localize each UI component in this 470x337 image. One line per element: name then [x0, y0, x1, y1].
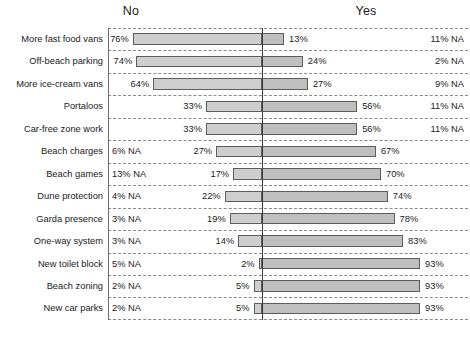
label-column-divider: [108, 28, 109, 320]
na-label-left: 4% NA: [112, 185, 141, 207]
category-label: More ice-cream vans: [0, 73, 103, 95]
diverging-bar-chart: No Yes More fast food vans76%13%11% NAOf…: [0, 0, 470, 337]
value-label-no: 74%: [114, 50, 133, 72]
plot-area: More fast food vans76%13%11% NAOff-beach…: [0, 28, 470, 320]
chart-row: Off-beach parking74%24%2% NA: [0, 50, 470, 72]
bar-no: [230, 213, 262, 224]
bar-yes: [262, 258, 420, 269]
category-label: Garda presence: [0, 208, 103, 230]
category-label: New car parks: [0, 297, 103, 319]
chart-row: Beach charges6% NA27%67%: [0, 140, 470, 162]
chart-row: Car-free zone work33%56%11% NA: [0, 118, 470, 140]
category-label: Portaloos: [0, 95, 103, 117]
bar-yes: [262, 213, 395, 224]
na-label-right: 11% NA: [431, 95, 464, 117]
bar-no: [254, 280, 263, 291]
value-label-yes: 24%: [308, 50, 327, 72]
chart-row: More fast food vans76%13%11% NA: [0, 28, 470, 50]
value-label-yes: 78%: [400, 208, 419, 230]
value-label-no: 19%: [207, 208, 226, 230]
na-label-right: 11% NA: [431, 28, 464, 50]
na-label-right: 11% NA: [431, 118, 464, 140]
bar-yes: [262, 191, 388, 202]
bar-no: [136, 56, 262, 67]
value-label-yes: 74%: [393, 185, 412, 207]
bar-yes: [262, 123, 357, 134]
bar-no: [216, 146, 262, 157]
chart-row: Dune protection4% NA22%74%: [0, 185, 470, 207]
bar-yes: [262, 56, 303, 67]
bar-yes: [262, 168, 381, 179]
bar-no: [225, 191, 262, 202]
na-label-left: 3% NA: [112, 208, 141, 230]
value-label-no: 14%: [216, 230, 235, 252]
category-label: Beach games: [0, 163, 103, 185]
value-label-yes: 13%: [289, 28, 308, 50]
value-label-no: 5%: [236, 275, 249, 297]
axis-header-no: No: [0, 4, 262, 18]
category-label: New toilet block: [0, 253, 103, 275]
zero-axis-line: [262, 28, 263, 320]
bar-no: [153, 78, 262, 89]
na-label-left: 13% NA: [112, 163, 146, 185]
bar-yes: [262, 280, 420, 291]
bar-no: [206, 123, 262, 134]
chart-row: Portaloos33%56%11% NA: [0, 95, 470, 117]
category-label: Off-beach parking: [0, 50, 103, 72]
na-label-left: 6% NA: [112, 140, 141, 162]
value-label-no: 2%: [241, 253, 254, 275]
bar-yes: [262, 101, 357, 112]
value-label-no: 33%: [183, 118, 202, 140]
value-label-yes: 93%: [425, 275, 444, 297]
value-label-no: 64%: [131, 73, 150, 95]
bar-no: [206, 101, 262, 112]
na-label-right: 2% NA: [435, 50, 464, 72]
category-label: Car-free zone work: [0, 118, 103, 140]
category-label: One-way system: [0, 230, 103, 252]
value-label-no: 17%: [211, 163, 230, 185]
value-label-yes: 56%: [362, 118, 381, 140]
value-label-yes: 67%: [381, 140, 400, 162]
value-label-no: 33%: [183, 95, 202, 117]
na-label-right: 9% NA: [435, 73, 464, 95]
value-label-no: 22%: [202, 185, 221, 207]
bar-no: [233, 168, 262, 179]
bar-no: [254, 303, 263, 314]
chart-row: New car parks2% NA5%93%: [0, 297, 470, 319]
bar-yes: [262, 146, 376, 157]
chart-row: Beach games13% NA17%70%: [0, 163, 470, 185]
category-label: Beach zoning: [0, 275, 103, 297]
value-label-yes: 70%: [386, 163, 405, 185]
na-label-left: 2% NA: [112, 275, 141, 297]
value-label-yes: 93%: [425, 297, 444, 319]
bar-yes: [262, 303, 420, 314]
value-label-no: 76%: [110, 28, 129, 50]
na-label-left: 5% NA: [112, 253, 141, 275]
category-label: More fast food vans: [0, 28, 103, 50]
value-label-yes: 27%: [313, 73, 332, 95]
chart-row: More ice-cream vans64%27%9% NA: [0, 73, 470, 95]
value-label-no: 5%: [236, 297, 249, 319]
na-label-left: 3% NA: [112, 230, 141, 252]
axis-header-yes: Yes: [262, 4, 470, 18]
chart-row: Beach zoning2% NA5%93%: [0, 275, 470, 297]
bar-yes: [262, 235, 403, 246]
bar-no: [238, 235, 262, 246]
bar-yes: [262, 78, 308, 89]
category-label: Dune protection: [0, 185, 103, 207]
value-label-yes: 93%: [425, 253, 444, 275]
category-label: Beach charges: [0, 140, 103, 162]
na-label-left: 2% NA: [112, 297, 141, 319]
chart-row: Garda presence3% NA19%78%: [0, 208, 470, 230]
bar-no: [133, 33, 262, 44]
chart-row: One-way system3% NA14%83%: [0, 230, 470, 252]
chart-row: New toilet block5% NA2%93%: [0, 253, 470, 275]
value-label-yes: 83%: [408, 230, 427, 252]
bar-yes: [262, 33, 284, 44]
value-label-no: 27%: [194, 140, 213, 162]
value-label-yes: 56%: [362, 95, 381, 117]
